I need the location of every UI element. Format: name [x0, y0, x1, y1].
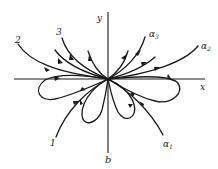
curve-label-alpha2-sub: 2 [207, 45, 211, 52]
curve-label-1: 1 [50, 139, 56, 148]
x-axis-label: x [200, 83, 205, 92]
curve-label-alpha3: α3 [149, 30, 159, 40]
trajectory-upper-right-a [108, 51, 128, 79]
trajectory-alpha2 [108, 46, 198, 79]
curve-label-alpha1-sub: 1 [169, 143, 173, 150]
y-axis-label: y [97, 14, 102, 23]
phase-portrait-diagram [0, 0, 218, 169]
curve-label-2-text: 2 [15, 35, 21, 45]
trajectory-2 [18, 44, 108, 79]
curve-label-alpha1: α1 [163, 140, 173, 150]
curve-label-1-text: 1 [50, 138, 56, 148]
curve-label-2: 2 [15, 36, 21, 45]
curve-label-alpha2: α2 [201, 42, 211, 52]
curve-label-alpha3-sub: 3 [155, 33, 159, 40]
figure-caption: b [105, 155, 111, 165]
loop-lower-right [108, 79, 135, 118]
curve-label-3: 3 [56, 28, 62, 37]
loop-lower-left [82, 79, 108, 123]
loop-right [108, 77, 180, 102]
curve-label-3-text: 3 [56, 27, 62, 37]
